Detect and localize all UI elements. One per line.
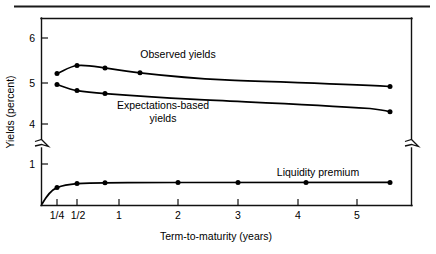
- expectations-yields-point: [388, 109, 393, 114]
- observed-yields-point: [55, 71, 60, 76]
- x-axis-title: Term-to-maturity (years): [160, 230, 272, 242]
- chart-svg: 6 5 4 1 1/4 1/2 1 2 3 4 5 Term-to-maturi…: [0, 0, 436, 254]
- liquidity-premium-point: [103, 180, 108, 185]
- expectations-yields-point: [75, 88, 80, 93]
- observed-yields-point: [138, 70, 143, 75]
- expectations-based-yields-line: [57, 85, 390, 112]
- liquidity-premium-point: [304, 180, 309, 185]
- liquidity-premium-point: [388, 180, 393, 185]
- figure-container: 6 5 4 1 1/4 1/2 1 2 3 4 5 Term-to-maturi…: [0, 0, 436, 254]
- observed-yields-point: [388, 84, 393, 89]
- series-expectations-based-yields: Expectations-based yields: [55, 82, 393, 124]
- liquidity-premium-point: [75, 181, 80, 186]
- expectations-yields-point: [55, 82, 60, 87]
- x-tick-label-3: 3: [235, 209, 241, 221]
- y-axis-break-mark-right: [405, 140, 419, 147]
- liquidity-premium-point: [55, 185, 60, 190]
- y-tick-label-6: 6: [29, 32, 35, 44]
- x-tick-label-quarter: 1/4: [50, 209, 65, 221]
- observed-yields-point: [103, 66, 108, 71]
- y-axis-title: Yields (percent): [4, 75, 16, 148]
- x-tick-label-2: 2: [175, 209, 181, 221]
- series-observed-yields: Observed yields: [55, 48, 393, 89]
- liquidity-premium-line: [42, 182, 390, 204]
- y-tick-label-5: 5: [29, 77, 35, 89]
- series-label-expectations-line2: yields: [150, 112, 177, 124]
- y-tick-label-1: 1: [29, 158, 35, 170]
- expectations-yields-point: [103, 91, 108, 96]
- observed-yields-point: [75, 63, 80, 68]
- series-label-observed-yields: Observed yields: [140, 48, 215, 60]
- series-liquidity-premium: Liquidity premium: [42, 166, 393, 204]
- y-tick-label-4: 4: [29, 118, 35, 130]
- series-label-expectations-line1: Expectations-based: [117, 99, 209, 111]
- liquidity-premium-point: [236, 180, 241, 185]
- x-tick-label-5: 5: [354, 209, 360, 221]
- series-label-liquidity-premium: Liquidity premium: [277, 166, 360, 178]
- x-tick-label-half: 1/2: [71, 209, 86, 221]
- liquidity-premium-point: [176, 180, 181, 185]
- x-tick-label-1: 1: [116, 209, 122, 221]
- y-axis-break-mark-left: [35, 140, 49, 147]
- x-tick-label-4: 4: [295, 209, 301, 221]
